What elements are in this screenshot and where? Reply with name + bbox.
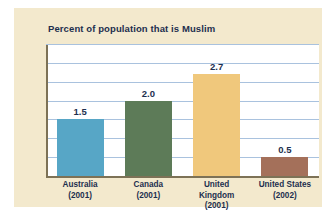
- chart-title: Percent of population that is Muslim: [48, 23, 215, 34]
- x-tick-label-year: (2002): [254, 191, 316, 202]
- bar-slot: 2.7: [193, 44, 240, 176]
- bar[interactable]: [57, 119, 104, 176]
- bar-value-label: 1.5: [57, 106, 104, 117]
- bar-slot: 0.5: [261, 44, 308, 176]
- x-tick-label-name: Australia: [49, 180, 111, 191]
- x-tick-label: UnitedKingdom(2001): [186, 180, 248, 212]
- bar-value-label: 2.0: [125, 88, 172, 99]
- bar-value-label: 2.7: [193, 61, 240, 72]
- x-tick-label-name: Kingdom: [186, 191, 248, 202]
- x-tick-label-name: United: [186, 180, 248, 191]
- x-axis-tick-labels: Australia(2001)Canada(2001)UnitedKingdom…: [46, 180, 319, 216]
- bar[interactable]: [125, 101, 172, 176]
- bar-slot: 2.0: [125, 44, 172, 176]
- x-tick-label: Australia(2001): [49, 180, 111, 201]
- bar[interactable]: [261, 157, 308, 176]
- chart-panel: Percent of population that is Muslim 1.5…: [14, 8, 322, 207]
- x-tick-label: Canada(2001): [117, 180, 179, 201]
- x-tick-label-year: (2001): [117, 191, 179, 202]
- x-tick-label-name: United States: [254, 180, 316, 191]
- x-tick-label-name: Canada: [117, 180, 179, 191]
- bar-value-label: 0.5: [261, 144, 308, 155]
- x-tick-label: United States(2002): [254, 180, 316, 201]
- chart-figure: Percent of population that is Muslim 1.5…: [0, 0, 336, 218]
- x-tick-label-year: (2001): [49, 191, 111, 202]
- bar[interactable]: [193, 74, 240, 176]
- bar-slot: 1.5: [57, 44, 104, 176]
- bars-group: 1.52.02.70.5: [46, 45, 319, 177]
- x-tick-label-year: (2001): [186, 201, 248, 212]
